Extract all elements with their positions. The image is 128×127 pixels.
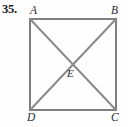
vertex-label-d: D: [27, 111, 35, 123]
vertex-label-e: E: [67, 67, 74, 79]
vertex-label-b: B: [111, 4, 118, 16]
square-diagonals-diagram: [0, 0, 128, 127]
square-diagonals: [30, 19, 116, 110]
geometry-figure: 35. A B C D E: [0, 0, 128, 127]
vertex-label-c: C: [111, 111, 119, 123]
vertex-label-a: A: [30, 4, 37, 16]
